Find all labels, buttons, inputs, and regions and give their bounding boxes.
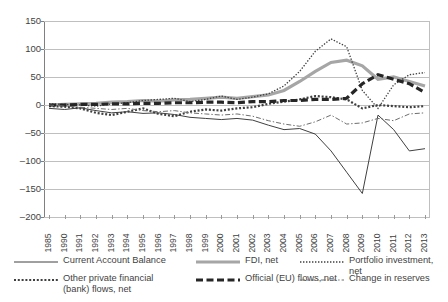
x-tick-mark: [96, 215, 97, 219]
x-tick-label: 2011: [389, 235, 398, 253]
x-tick-label: 2009: [358, 234, 367, 253]
plot-area: [44, 21, 430, 217]
x-tick-label: 2000: [217, 234, 226, 253]
x-tick-mark: [65, 215, 66, 219]
x-tick-label: 1997: [170, 234, 179, 253]
chart-legend: Current Account BalanceFDI, netPortfolio…: [0, 255, 448, 302]
x-tick-label: 1998: [185, 234, 194, 253]
y-tick-label: 100: [3, 44, 41, 54]
x-tick-mark: [253, 215, 254, 219]
legend-swatch-icon: [14, 274, 58, 286]
y-tick-label: 0: [3, 100, 41, 110]
x-axis-labels: 1985199019911992199319941995199619971998…: [44, 219, 430, 253]
legend-item[interactable]: Other private financial (bank) flows, ne…: [14, 273, 153, 295]
x-tick-mark: [315, 215, 316, 219]
x-tick-label: 2012: [405, 234, 414, 253]
x-tick-label: 1995: [138, 234, 147, 253]
x-tick-label: 1990: [60, 234, 69, 253]
x-tick-mark: [159, 215, 160, 219]
legend-label: Change in reserves: [349, 273, 430, 284]
x-tick-label: 1994: [123, 234, 132, 253]
y-tick-label: 150: [3, 16, 41, 26]
x-tick-label: 1996: [154, 234, 163, 253]
legend-label: Current Account Balance: [63, 255, 166, 266]
x-tick-label: 2002: [248, 234, 257, 253]
x-tick-label: 2008: [342, 234, 351, 253]
y-tick-label: –50: [3, 128, 41, 138]
legend-label: Other private financial (bank) flows, ne…: [63, 273, 153, 295]
x-tick-label: 2013: [420, 234, 429, 253]
x-tick-label: 1985: [44, 234, 53, 253]
legend-label: FDI, net: [245, 255, 278, 266]
legend-swatch-icon: [196, 256, 240, 268]
x-tick-mark: [190, 215, 191, 219]
y-tick-label: –200: [3, 212, 41, 222]
x-tick-label: 2006: [311, 234, 320, 253]
legend-swatch-icon: [300, 256, 344, 268]
series-line: [49, 75, 425, 105]
x-tick-mark: [80, 215, 81, 219]
x-tick-mark: [237, 215, 238, 219]
x-tick-mark: [300, 215, 301, 219]
x-tick-mark: [425, 215, 426, 219]
legend-swatch-icon: [14, 256, 58, 268]
x-tick-mark: [221, 215, 222, 219]
x-tick-label: 1993: [107, 234, 116, 253]
y-axis-labels: 150100500–50–100–150–200: [0, 0, 41, 240]
x-tick-label: 2005: [295, 234, 304, 253]
x-tick-mark: [347, 215, 348, 219]
x-tick-label: 1991: [76, 234, 85, 253]
series-layer: [44, 21, 430, 217]
y-tick-label: –150: [3, 184, 41, 194]
legend-item[interactable]: FDI, net: [196, 255, 278, 268]
x-tick-label: 2001: [232, 234, 241, 253]
x-tick-mark: [206, 215, 207, 219]
x-tick-mark: [284, 215, 285, 219]
x-tick-mark: [174, 215, 175, 219]
y-tick-label: –100: [3, 156, 41, 166]
legend-swatch-icon: [300, 274, 344, 286]
x-tick-mark: [127, 215, 128, 219]
line-chart: 150100500–50–100–150–200 198519901991199…: [0, 0, 448, 302]
x-tick-mark: [394, 215, 395, 219]
legend-item[interactable]: Change in reserves: [300, 273, 430, 286]
x-tick-label: 2010: [373, 234, 382, 253]
x-tick-label: 2007: [326, 234, 335, 253]
x-tick-label: 1999: [201, 234, 210, 253]
legend-item[interactable]: Current Account Balance: [14, 255, 166, 268]
x-tick-mark: [49, 215, 50, 219]
x-tick-label: 1992: [91, 234, 100, 253]
x-tick-mark: [268, 215, 269, 219]
series-line: [49, 60, 425, 105]
x-tick-mark: [143, 215, 144, 219]
x-tick-mark: [331, 215, 332, 219]
x-tick-label: 2004: [279, 234, 288, 253]
x-tick-mark: [409, 215, 410, 219]
x-tick-label: 2003: [264, 234, 273, 253]
x-tick-mark: [362, 215, 363, 219]
y-tick-label: 50: [3, 72, 41, 82]
x-tick-mark: [112, 215, 113, 219]
x-tick-mark: [378, 215, 379, 219]
legend-swatch-icon: [196, 274, 240, 286]
